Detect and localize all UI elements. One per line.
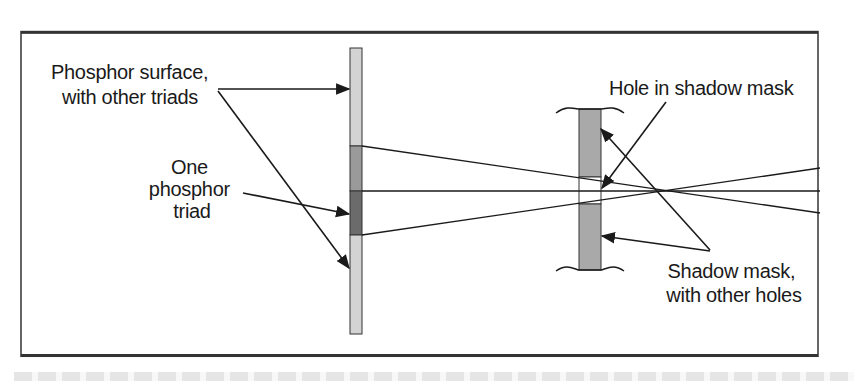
phosphor-triad-top [350, 146, 362, 191]
label-phosphor-surface-line2: with other triads [61, 86, 198, 108]
arrow-shadow-mask-lower [602, 236, 710, 251]
shadow-mask-diagram: Phosphor surface, with other triads One … [0, 0, 868, 381]
label-phosphor-surface: Phosphor surface, with other triads [51, 61, 213, 108]
label-hole-line1: Hole in shadow mask [609, 77, 795, 99]
shadow-mask-upper [579, 109, 601, 177]
callout-arrows [218, 89, 710, 268]
label-shadow-mask-line2: with other holes [665, 284, 802, 306]
shadow-mask [556, 108, 624, 271]
arrow-shadow-mask-upper [601, 129, 710, 250]
label-one-triad-line1: One [171, 156, 208, 178]
label-one-triad-line3: triad [173, 200, 210, 222]
label-one-triad-line2: phosphor [149, 178, 231, 200]
label-shadow-mask: Shadow mask, with other holes [665, 260, 802, 306]
label-hole-in-mask: Hole in shadow mask [609, 77, 795, 99]
phosphor-surface-upper [350, 48, 362, 146]
caption-text-cropped [14, 372, 854, 381]
phosphor-surface [350, 48, 362, 334]
label-shadow-mask-line1: Shadow mask, [668, 260, 796, 282]
phosphor-triad-bottom [350, 191, 362, 235]
arrow-phosphor-surface-lower [218, 91, 349, 268]
label-phosphor-surface-line1: Phosphor surface, [51, 61, 208, 83]
label-one-triad: One phosphor triad [149, 156, 235, 222]
shadow-mask-lower [579, 204, 601, 270]
phosphor-surface-lower [350, 235, 362, 334]
arrow-hole-in-mask [602, 102, 666, 188]
